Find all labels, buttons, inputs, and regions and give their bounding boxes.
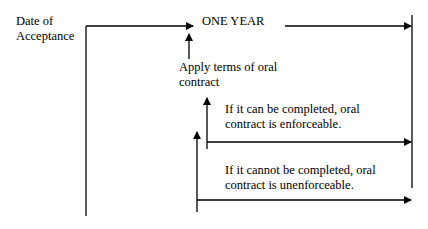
start-label-line1: Date of (16, 14, 74, 29)
apply-label-line1: Apply terms of oral (179, 60, 277, 75)
period-label-text: ONE YEAR (202, 14, 264, 29)
date-of-acceptance-label: Date of Acceptance (16, 14, 74, 44)
one-year-rule-diagram: Date of Acceptance ONE YEAR Apply terms … (0, 0, 428, 229)
apply-terms-label: Apply terms of oral contract (179, 60, 277, 90)
not-completable-label: If it cannot be completed, oral contract… (225, 163, 376, 193)
apply-label-line2: contract (179, 75, 277, 90)
not-completable-label-line2: contract is unenforceable. (225, 178, 376, 193)
not-completable-label-line1: If it cannot be completed, oral (225, 163, 376, 178)
start-label-line2: Acceptance (16, 29, 74, 44)
completable-label-line1: If it can be completed, oral (225, 102, 360, 117)
one-year-label: ONE YEAR (202, 14, 264, 29)
completable-label: If it can be completed, oral contract is… (225, 102, 360, 132)
completable-label-line2: contract is enforceable. (225, 117, 360, 132)
